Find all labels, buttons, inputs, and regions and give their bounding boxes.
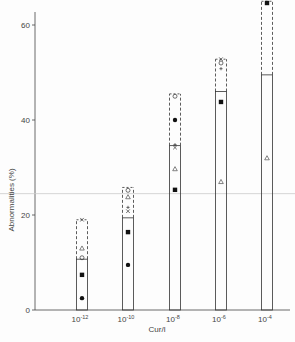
x-tick-label: 10-8 — [166, 314, 180, 324]
bars — [77, 1, 273, 310]
open-circle-marker — [219, 61, 223, 65]
x-tick-label: 10-4 — [258, 314, 272, 324]
open-triangle-marker — [126, 195, 131, 199]
data-markers — [80, 1, 270, 301]
filled-circle-marker — [80, 296, 84, 300]
x-tick-label: 10-6 — [212, 314, 226, 324]
x-tick-label: 10-10 — [118, 314, 135, 324]
y-axis-label: Abnormalities (%) — [7, 168, 16, 231]
bar — [77, 259, 88, 310]
axes: 020406010-1210-1010-810-610-4 — [21, 12, 290, 324]
filled-square-marker — [126, 230, 130, 234]
filled-circle-marker — [126, 263, 130, 267]
open-circle-marker — [173, 94, 177, 98]
filled-square-marker — [173, 188, 177, 192]
y-tick-label: 40 — [21, 116, 30, 125]
y-tick-label: 0 — [26, 306, 31, 315]
filled-circle-marker — [173, 118, 177, 122]
filled-square-marker — [80, 273, 84, 277]
open-triangle-marker — [173, 167, 178, 171]
x-tick-label: 10-12 — [72, 314, 89, 324]
open-triangle-marker — [219, 179, 224, 183]
filled-square-marker — [219, 100, 223, 104]
open-circle-marker — [126, 188, 130, 192]
open-triangle-marker — [80, 246, 85, 250]
y-tick-label: 20 — [21, 211, 30, 220]
bar — [262, 75, 273, 310]
open-triangle-marker — [265, 156, 270, 160]
y-tick-label: 60 — [21, 21, 30, 30]
bar — [170, 146, 181, 310]
filled-square-marker — [265, 1, 269, 5]
abnormalities-bar-chart: 020406010-1210-1010-810-610-4 Abnormalit… — [0, 0, 295, 342]
x-axis-label: Cur/l — [149, 325, 166, 334]
bar — [216, 92, 227, 311]
